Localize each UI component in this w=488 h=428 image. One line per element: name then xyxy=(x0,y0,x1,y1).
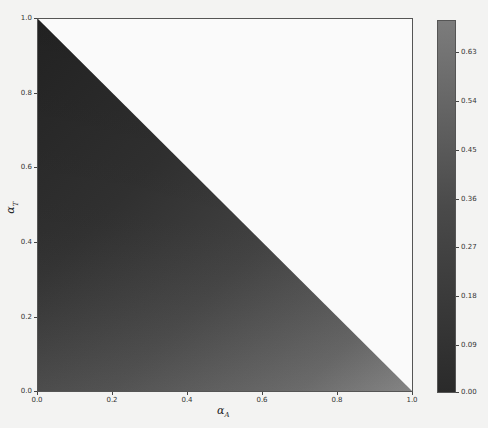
colorbar-tick-label: 0.36 xyxy=(461,195,477,203)
ytick-mark xyxy=(34,317,37,318)
ytick-label: 0.0 xyxy=(8,387,32,395)
ytick-mark xyxy=(34,242,37,243)
ytick-label: 0.6 xyxy=(8,163,32,171)
colorbar-tick-mark xyxy=(456,150,459,151)
colorbar-tick-mark xyxy=(456,199,459,200)
ytick-label: 0.2 xyxy=(8,313,32,321)
ytick-mark xyxy=(34,167,37,168)
colorbar-tick-mark xyxy=(456,101,459,102)
heatmap-triangle xyxy=(38,19,412,391)
plot-area xyxy=(37,18,413,392)
x-axis-label-subscript: A xyxy=(224,411,229,419)
colorbar-tick-label: 0.18 xyxy=(461,292,477,300)
xtick-mark xyxy=(187,392,188,395)
ytick-label: 0.4 xyxy=(8,238,32,246)
colorbar-tick-mark xyxy=(456,296,459,297)
xtick-label: 0.4 xyxy=(177,396,197,404)
xtick-label: 0.0 xyxy=(27,396,47,404)
xtick-mark xyxy=(412,392,413,395)
colorbar-tick-label: 0.09 xyxy=(461,341,477,349)
ytick-mark xyxy=(34,93,37,94)
ytick-label: 1.0 xyxy=(8,14,32,22)
xtick-mark xyxy=(337,392,338,395)
y-axis-label-subscript: T xyxy=(12,202,20,207)
y-axis-label-symbol: α xyxy=(4,206,17,213)
colorbar-tick-mark xyxy=(456,52,459,53)
ytick-mark xyxy=(34,18,37,19)
ytick-label: 0.8 xyxy=(8,89,32,97)
colorbar-tick-label: 0.27 xyxy=(461,243,477,251)
xtick-mark xyxy=(37,392,38,395)
colorbar xyxy=(437,20,456,393)
y-axis-label: αT xyxy=(4,202,19,214)
xtick-mark xyxy=(112,392,113,395)
xtick-label: 0.6 xyxy=(252,396,272,404)
xtick-mark xyxy=(262,392,263,395)
colorbar-tick-mark xyxy=(456,247,459,248)
colorbar-tick-label: 0.45 xyxy=(461,146,477,154)
x-axis-label: αA xyxy=(217,404,230,419)
xtick-label: 0.2 xyxy=(102,396,122,404)
xtick-label: 1.0 xyxy=(402,396,422,404)
colorbar-tick-label: 0.54 xyxy=(461,97,477,105)
colorbar-tick-label: 0.63 xyxy=(461,48,477,56)
colorbar-tick-label: 0.00 xyxy=(461,388,477,396)
colorbar-tick-mark xyxy=(456,345,459,346)
colorbar-tick-mark xyxy=(456,392,459,393)
xtick-label: 0.8 xyxy=(327,396,347,404)
colorbar-gradient xyxy=(438,21,455,392)
